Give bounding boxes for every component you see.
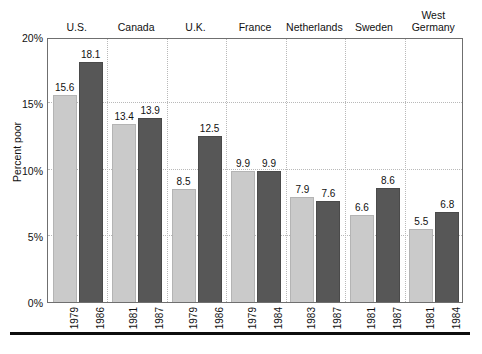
- gridline-vertical: [167, 39, 168, 302]
- bar-value-label: 12.5: [200, 123, 219, 134]
- chart-figure: 0%5%10%15%20% Percent poor U.S.CanadaU.K…: [0, 0, 482, 354]
- year-label-1986: 1986: [214, 307, 225, 329]
- group-header-u.k.: U.K.: [166, 0, 225, 36]
- bar-netherlands-1987: [316, 201, 340, 302]
- bar-value-label: 8.6: [381, 175, 395, 186]
- bar-sweden-1987: [376, 188, 400, 302]
- year-label-1984: 1984: [451, 307, 462, 329]
- bar-value-label: 7.9: [295, 184, 309, 195]
- bar-value-label: 13.9: [140, 105, 159, 116]
- year-label-1981: 1981: [425, 307, 436, 329]
- plot-area: 15.618.113.413.98.512.59.99.97.97.66.68.…: [47, 38, 463, 303]
- gridline-vertical: [405, 39, 406, 302]
- group-header-west-germany: West Germany: [404, 0, 463, 36]
- year-label-1986: 1986: [95, 307, 106, 329]
- gridline-vertical: [345, 39, 346, 302]
- year-label-1987: 1987: [392, 307, 403, 329]
- y-tick-label: 0%: [5, 297, 43, 309]
- gridline-vertical: [226, 39, 227, 302]
- group-header-sweden: Sweden: [344, 0, 403, 36]
- gridline-horizontal: [48, 102, 462, 103]
- year-label-1981: 1981: [366, 307, 377, 329]
- group-header-france: France: [225, 0, 284, 36]
- year-label-1979: 1979: [69, 307, 80, 329]
- bar-sweden-1981: [350, 215, 374, 302]
- bar-value-label: 18.1: [81, 49, 100, 60]
- y-tick-label: 20%: [5, 32, 43, 44]
- bar-netherlands-1983: [290, 197, 314, 302]
- group-header-netherlands: Netherlands: [285, 0, 344, 36]
- bar-value-label: 6.6: [355, 202, 369, 213]
- year-label-1983: 1983: [306, 307, 317, 329]
- bar-value-label: 15.6: [55, 82, 74, 93]
- bar-west-germany-1981: [409, 229, 433, 302]
- bar-u.s.-1979: [53, 95, 77, 302]
- bar-value-label: 9.9: [236, 158, 250, 169]
- bottom-rule: [10, 332, 470, 335]
- bar-france-1984: [257, 171, 281, 302]
- bar-value-label: 6.8: [440, 199, 454, 210]
- bar-value-label: 9.9: [262, 158, 276, 169]
- bar-france-1979: [231, 171, 255, 302]
- bar-u.k.-1979: [172, 189, 196, 302]
- gridline-vertical: [286, 39, 287, 302]
- bar-west-germany-1984: [435, 212, 459, 302]
- year-label-1987: 1987: [332, 307, 343, 329]
- gridline-horizontal: [48, 169, 462, 170]
- year-label-1979: 1979: [247, 307, 258, 329]
- year-label-1984: 1984: [273, 307, 284, 329]
- gridline-vertical: [107, 39, 108, 302]
- year-label-1979: 1979: [188, 307, 199, 329]
- year-label-1981: 1981: [128, 307, 139, 329]
- bar-value-label: 5.5: [414, 216, 428, 227]
- bar-value-label: 13.4: [114, 111, 133, 122]
- bar-canada-1981: [112, 124, 136, 302]
- group-header-row: U.S.CanadaU.K.FranceNetherlandsSwedenWes…: [47, 0, 463, 36]
- bar-value-label: 7.6: [321, 188, 335, 199]
- bar-value-label: 8.5: [177, 176, 191, 187]
- y-tick-label: 5%: [5, 231, 43, 243]
- bar-canada-1987: [138, 118, 162, 302]
- bar-u.s.-1986: [79, 62, 103, 302]
- year-label-row: 1979198619811987197919861979198419831987…: [47, 303, 463, 348]
- bar-u.k.-1986: [198, 136, 222, 302]
- year-label-1987: 1987: [154, 307, 165, 329]
- group-header-canada: Canada: [106, 0, 165, 36]
- y-axis-title: Percent poor: [11, 92, 23, 212]
- group-header-u.s.: U.S.: [47, 0, 106, 36]
- gridline-horizontal: [48, 235, 462, 236]
